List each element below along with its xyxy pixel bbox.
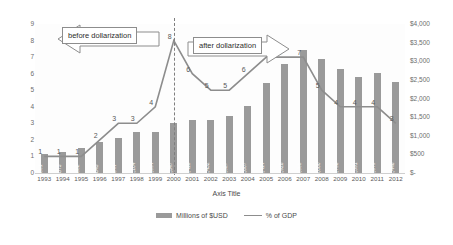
legend-swatch-line-icon [244,215,262,216]
annotation-after-label: after dollarization [193,37,262,54]
x-axis-line [35,173,405,174]
x-axis-tick-label: 2002 [202,175,221,182]
legend-item-line[interactable]: % of GDP [244,212,297,219]
line-value-label: 4 [149,99,153,106]
x-axis-tick-label: 2001 [183,175,202,182]
x-axis-tick-label: 2006 [276,175,295,182]
y-axis-left-tick: 0 [30,170,34,177]
line-value-label: 3 [112,115,116,122]
legend-swatch-bar-icon [156,213,172,218]
y-axis-left-tick: 2 [30,137,34,144]
y-axis-left-tick: 7 [30,54,34,61]
y-axis-right-tick: $2,500 [410,77,430,84]
x-axis-tick-labels: 1993199419951996199719981999200020012002… [35,175,405,182]
x-axis-tick-label: 1996 [91,175,110,182]
y-axis-left-tick: 8 [30,37,34,44]
y-axis-right-tick: $3,000 [410,58,430,65]
y-axis-right: $-$500$1,000$1,500$2,000$2,500$3,000$3,5… [406,24,452,173]
x-axis-tick-label: 1994 [54,175,73,182]
line-value-label: 5 [316,82,320,89]
annotation-after-dollarization: after dollarization [193,37,262,54]
y-axis-left-tick: 3 [30,120,34,127]
x-axis-tick-label: 2010 [350,175,369,182]
x-axis-tick-label: 2009 [331,175,350,182]
line-value-label: 1 [75,148,79,155]
x-axis-title: Axis Title [0,190,453,197]
line-value-label: 5 [223,82,227,89]
legend-label-line: % of GDP [266,212,297,219]
line-value-label: 3 [390,115,394,122]
y-axis-right-tick: $1,500 [410,114,430,121]
line-value-label: 1 [38,148,42,155]
line-value-label: 8 [168,33,172,40]
y-axis-left-tick: 5 [30,87,34,94]
x-axis-tick-label: 1993 [35,175,54,182]
line-value-label: 6 [186,66,190,73]
line-value-label: 7 [297,49,301,56]
chart-root: 0123456789 $-$500$1,000$1,500$2,000$2,50… [0,0,453,245]
legend-item-bars[interactable]: Millions of $USD [156,212,228,219]
x-axis-tick-label: 2011 [368,175,387,182]
y-axis-left-tick: 1 [30,153,34,160]
x-axis-tick-label: 2008 [313,175,332,182]
y-axis-right-tick: $- [410,170,416,177]
line-value-label: 2 [94,132,98,139]
y-axis-right-tick: $500 [410,151,424,158]
x-axis-tick-label: 2007 [294,175,313,182]
line-value-label: 3 [131,115,135,122]
line-value-label: 4 [334,99,338,106]
line-value-label: 1 [57,148,61,155]
annotation-before-dollarization: before dollarization [62,27,137,44]
legend-label-bars: Millions of $USD [176,212,228,219]
x-axis-tick-label: 2004 [239,175,258,182]
x-axis-tick-label: 1995 [72,175,91,182]
annotation-before-label: before dollarization [62,27,137,44]
y-axis-right-tick: $1,000 [410,133,430,140]
y-axis-right-tick: $2,000 [410,95,430,102]
dollarization-divider [174,18,175,175]
y-axis-right-tick: $4,000 [410,21,430,28]
y-axis-left-tick: 9 [30,21,34,28]
x-axis-tick-label: 2000 [165,175,184,182]
x-axis-tick-label: 1999 [146,175,165,182]
y-axis-left-tick: 6 [30,70,34,77]
y-axis-left: 0123456789 [4,24,34,173]
line-value-label: 4 [353,99,357,106]
line-value-label: 6 [242,66,246,73]
x-axis-tick-label: 2012 [387,175,406,182]
y-axis-right-tick: $3,500 [410,39,430,46]
x-axis-tick-label: 2003 [220,175,239,182]
x-axis-tick-label: 1997 [109,175,128,182]
y-axis-left-tick: 4 [30,104,34,111]
x-axis-tick-label: 1998 [128,175,147,182]
x-axis-tick-label: 2005 [257,175,276,182]
chart-legend: Millions of $USD % of GDP [0,212,453,219]
line-value-label: 4 [371,99,375,106]
line-value-label: 5 [205,82,209,89]
